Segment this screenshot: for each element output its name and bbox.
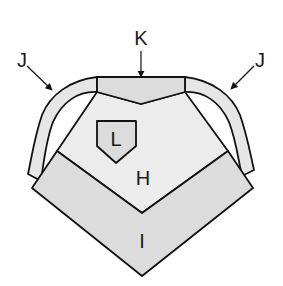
label-j-right: J	[255, 49, 265, 71]
arrow-j-right	[231, 66, 254, 89]
armor-diagram: J J K L H I	[0, 0, 283, 286]
label-j-left: J	[17, 49, 27, 71]
label-i: I	[139, 230, 145, 252]
diagram-canvas: J J K L H I	[0, 0, 283, 286]
label-h: H	[136, 167, 150, 189]
label-l: L	[110, 128, 121, 150]
arrow-j-left	[27, 66, 52, 90]
label-k: K	[134, 27, 148, 49]
